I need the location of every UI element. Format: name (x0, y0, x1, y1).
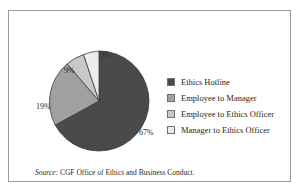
chart-legend: Ethics Hotline Employee to Manager Emplo… (167, 75, 295, 139)
pie-data-label-ethics-hotline: 67% (139, 129, 154, 137)
legend-item-label: Employee to Ethics Officer (181, 110, 274, 119)
pie-chart-svg (23, 27, 173, 157)
legend-item-label: Manager to Ethics Officer (181, 126, 270, 135)
legend-swatch-icon (167, 78, 175, 86)
legend-item-manager-to-ethics-officer[interactable]: Manager to Ethics Officer (167, 123, 295, 137)
legend-swatch-icon (167, 126, 175, 134)
source-note-text: CGF Office of Ethics and Business Conduc… (60, 168, 195, 177)
source-note-lead: Source: (35, 168, 58, 177)
legend-item-label: Employee to Manager (181, 94, 257, 103)
legend-swatch-icon (167, 94, 175, 102)
legend-swatch-icon (167, 110, 175, 118)
legend-item-employee-to-ethics-officer[interactable]: Employee to Ethics Officer (167, 107, 295, 121)
pie-data-label-manager-to-ethics-officer: 5% (100, 51, 111, 59)
legend-item-label: Ethics Hotline (181, 78, 230, 87)
legend-item-ethics-hotline[interactable]: Ethics Hotline (167, 75, 295, 89)
pie-chart-plot: 67% 19% 9% 5% (23, 27, 173, 157)
pie-chart-figure: 67% 19% 9% 5% Ethics Hotline Employee to… (0, 0, 300, 193)
pie-data-label-employee-to-manager: 19% (36, 103, 51, 111)
source-note: Source: CGF Office of Ethics and Busines… (35, 169, 195, 177)
legend-item-employee-to-manager[interactable]: Employee to Manager (167, 91, 295, 105)
pie-data-label-employee-to-ethics-officer: 9% (64, 67, 75, 75)
figure-frame: 67% 19% 9% 5% Ethics Hotline Employee to… (8, 10, 291, 182)
